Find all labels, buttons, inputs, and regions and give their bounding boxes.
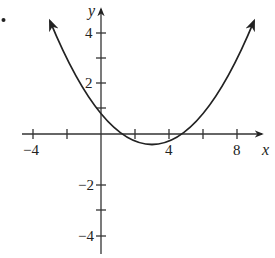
y-tick-label: −2 [78, 177, 94, 193]
y-tick-label: −4 [78, 228, 94, 244]
y-tick-label: 2 [85, 75, 93, 91]
x-tick-label: −4 [23, 142, 39, 158]
x-tick-label: 4 [165, 142, 173, 158]
y-axis: 4 2 −2 −4 y [78, 2, 106, 254]
x-tick-label: 8 [233, 142, 241, 158]
bullet-dot [2, 18, 6, 22]
y-tick-label: 4 [85, 25, 93, 41]
parabola-graph: −4 4 8 x 4 2 −2 −4 y [0, 0, 275, 258]
parabola-curve [50, 21, 254, 145]
y-axis-label: y [86, 2, 96, 20]
x-axis-label: x [261, 141, 269, 158]
